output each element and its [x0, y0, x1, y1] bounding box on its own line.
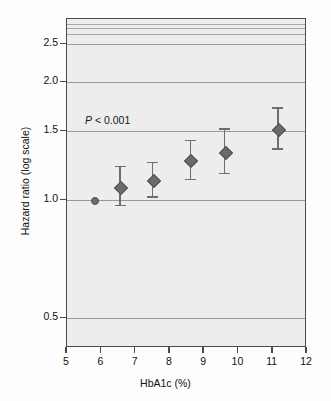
gridline — [67, 34, 305, 35]
x-axis-tick-label: 6 — [88, 356, 112, 367]
gridline — [67, 318, 305, 319]
gridline — [67, 28, 305, 29]
figure-canvas: Hazard ratio (log scale) 0.51.01.52.02.5… — [0, 0, 331, 401]
gridline — [67, 200, 305, 201]
x-axis-tick-mark — [168, 347, 170, 353]
p-text: < 0.001 — [92, 114, 130, 126]
y-axis-tick-label: 1.5 — [18, 124, 58, 135]
data-point-marker[interactable] — [114, 181, 128, 195]
gridline — [67, 82, 305, 83]
data-point-marker[interactable] — [272, 123, 286, 137]
x-axis-tick-label: 8 — [157, 356, 181, 367]
x-axis-tick-mark — [305, 347, 307, 353]
y-axis-tick-label: 1.0 — [18, 193, 58, 204]
error-bar-cap-upper — [185, 140, 196, 142]
reference-point-marker[interactable] — [91, 197, 99, 205]
x-axis-tick-label: 10 — [225, 356, 249, 367]
data-point-marker[interactable] — [219, 146, 233, 160]
x-axis-tick-label: 7 — [123, 356, 147, 367]
error-bar-cap-lower — [219, 173, 230, 175]
error-bar-cap-upper — [147, 162, 158, 164]
x-axis-tick-mark — [65, 347, 67, 353]
y-axis-tick-label: 0.5 — [18, 311, 58, 322]
error-bar-cap-lower — [115, 205, 126, 207]
y-axis-tick-label: 2.0 — [18, 75, 58, 86]
error-bar-cap-upper — [115, 166, 126, 168]
x-axis-tick-label: 9 — [191, 356, 215, 367]
data-point-marker[interactable] — [147, 173, 161, 187]
x-axis-tick-mark — [271, 347, 273, 353]
x-axis-title: HbA1c (%) — [0, 377, 331, 389]
gridline — [67, 44, 305, 45]
x-axis-tick-mark — [237, 347, 239, 353]
x-axis-tick-label: 5 — [54, 356, 78, 367]
error-bar-cap-lower — [185, 179, 196, 181]
x-axis-tick-label: 11 — [260, 356, 284, 367]
data-point-marker[interactable] — [184, 154, 198, 168]
x-axis-tick-mark — [100, 347, 102, 353]
x-axis-tick-mark — [202, 347, 204, 353]
x-axis-tick-mark — [134, 347, 136, 353]
gridline — [67, 131, 305, 132]
error-bar-cap-upper — [272, 107, 283, 109]
y-axis-title: Hazard ratio (log scale) — [19, 81, 31, 281]
p-value-annotation: P < 0.001 — [85, 114, 130, 126]
error-bar-cap-lower — [147, 196, 158, 198]
p-symbol: P — [85, 114, 92, 126]
error-bar-cap-lower — [272, 148, 283, 150]
x-axis-tick-label: 12 — [294, 356, 318, 367]
plot-area: P < 0.001 — [66, 18, 306, 347]
error-bar-cap-upper — [219, 128, 230, 130]
y-axis-tick-label: 2.5 — [18, 37, 58, 48]
gridline — [67, 24, 305, 25]
